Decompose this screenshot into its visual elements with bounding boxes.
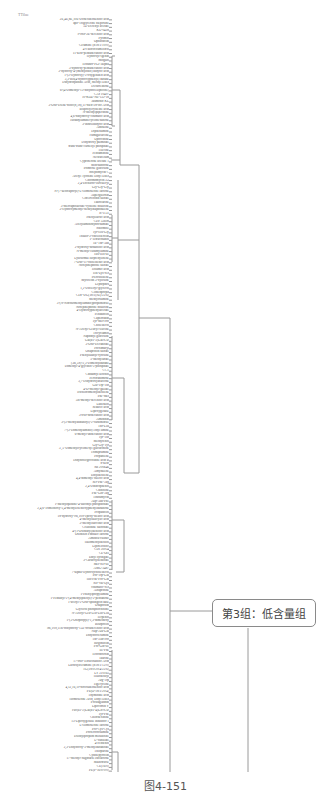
figure-caption: 图4-151 — [0, 777, 331, 793]
dendrogram-figure: TTilue 2E,4E,8E,10E-Dodecatetraenoic aci… — [0, 0, 331, 797]
dendrogram-lines — [0, 0, 331, 797]
group-3-low-content-box: 第3组：低含量组 — [212, 599, 316, 627]
